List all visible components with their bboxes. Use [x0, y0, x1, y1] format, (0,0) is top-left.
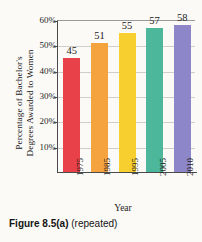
bar-value-label-1985: 51	[84, 30, 114, 41]
figure-bar-chart: Percentage of Bachelor's Degrees Awarded…	[0, 0, 202, 242]
figure-number: Figure 8.5(a)	[9, 218, 68, 229]
y-axis-title-line-1: Percentage of Bachelor's	[14, 18, 25, 188]
x-axis-tick-2005: 2005	[158, 136, 168, 176]
x-axis-tick-1995: 1995	[130, 136, 140, 176]
bar-value-label-2010: 58	[167, 12, 197, 23]
figure-caption: Figure 8.5(a) (repeated)	[9, 218, 117, 229]
y-axis-tick-60: 60%	[30, 15, 56, 25]
bar-value-label-1975: 45	[57, 45, 87, 56]
x-axis-tick-2010: 2010	[185, 136, 195, 176]
y-axis-tick-30: 30%	[30, 91, 56, 101]
bar-value-label-2005: 57	[140, 15, 170, 26]
figure-note: (repeated)	[71, 218, 117, 229]
x-axis-tick-1985: 1985	[102, 136, 112, 176]
y-axis-tick-40: 40%	[30, 66, 56, 76]
x-axis-tick-1975: 1975	[75, 136, 85, 176]
x-axis-title: Year	[0, 203, 202, 213]
bar-value-label-1995: 55	[112, 20, 142, 31]
y-axis-tick-10: 10%	[30, 142, 56, 152]
y-axis-tick-20: 20%	[30, 116, 56, 126]
y-axis-tick-50: 50%	[30, 40, 56, 50]
